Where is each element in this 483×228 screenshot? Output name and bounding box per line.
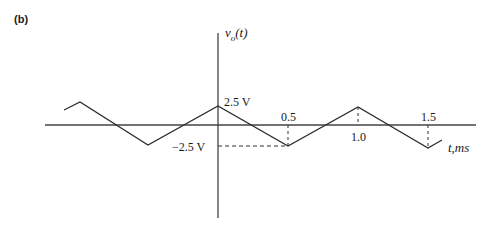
y-axis-label: vo(t)	[225, 26, 248, 43]
y-axis-label-arg: (t)	[235, 25, 247, 40]
t-1.5-label: 1.5	[421, 111, 436, 123]
x-axis-label: t,ms	[448, 141, 469, 154]
peak-voltage-label: 2.5 V	[224, 96, 250, 108]
t-1.0-label: 1.0	[351, 131, 366, 143]
trough-voltage-label: −2.5 V	[172, 141, 205, 153]
t-0.5-label: 0.5	[281, 111, 296, 123]
